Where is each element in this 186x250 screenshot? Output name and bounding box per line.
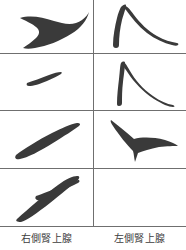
cell-row2-left-adrenal	[103, 57, 181, 107]
grid-rule-vertical-center	[93, 0, 94, 226]
caption-row: 右側腎上腺 左側腎上腺	[0, 228, 186, 250]
narrow-lambda-long-tail-silhouette	[103, 57, 181, 107]
arrowhead-up-right-silhouette	[14, 176, 86, 222]
blank-silhouette	[96, 170, 182, 224]
cell-row4-left-adrenal	[96, 170, 182, 224]
cell-row1-right-adrenal	[8, 4, 90, 50]
three-point-star-silhouette	[105, 116, 179, 164]
long-diagonal-sliver-silhouette	[12, 122, 84, 160]
cell-row4-right-adrenal	[14, 176, 86, 222]
caption-cell-left-adrenal: 左側腎上腺	[93, 228, 186, 250]
cell-row1-left-adrenal	[104, 2, 180, 50]
short-sliver-silhouette	[24, 70, 64, 88]
crescent-boomerang-silhouette	[8, 4, 90, 50]
cell-row2-right-adrenal	[24, 70, 64, 88]
caption-left-adrenal: 左側腎上腺	[114, 233, 166, 245]
cell-row3-right-adrenal	[12, 122, 84, 160]
caption-right-adrenal: 右側腎上腺	[21, 233, 73, 245]
grid-rule-horizontal-4	[0, 226, 186, 227]
cell-row3-left-adrenal	[105, 116, 179, 164]
inverted-v-lambda-silhouette	[104, 2, 180, 50]
caption-cell-right-adrenal: 右側腎上腺	[0, 228, 93, 250]
adrenal-gland-shape-figure: 右側腎上腺 左側腎上腺	[0, 0, 186, 250]
